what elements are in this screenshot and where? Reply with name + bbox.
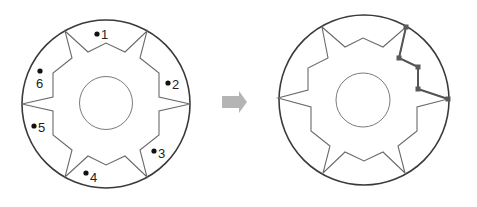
- left-figure: 123456: [22, 20, 190, 188]
- region-marker-dot: [151, 148, 156, 153]
- right-star-outline: [278, 27, 448, 173]
- vertex-handle[interactable]: [446, 97, 451, 102]
- vertex-handle[interactable]: [416, 87, 421, 92]
- right-figure: [278, 15, 451, 185]
- vertex-handle[interactable]: [397, 56, 402, 61]
- region-label-1: 1: [101, 27, 108, 42]
- region-label-4: 4: [90, 170, 97, 185]
- region-label-5: 5: [38, 120, 45, 135]
- left-outer-circle: [22, 20, 190, 188]
- vertex-handle[interactable]: [416, 65, 421, 70]
- region-marker-dot: [83, 170, 88, 175]
- right-outer-circle: [279, 15, 449, 185]
- transition-arrow-icon: [222, 91, 247, 113]
- right-inner-circle: [336, 73, 390, 127]
- region-label-2: 2: [172, 77, 179, 92]
- region-marker-dot: [31, 123, 36, 128]
- region-marker-dot: [37, 68, 42, 73]
- vertex-handle[interactable]: [404, 25, 409, 30]
- region-labels: 123456: [31, 27, 179, 185]
- region-marker-dot: [94, 31, 99, 36]
- region-marker-dot: [165, 80, 170, 85]
- diagram-canvas: 123456: [0, 0, 477, 207]
- region-label-6: 6: [36, 76, 43, 91]
- region-label-3: 3: [158, 146, 165, 161]
- left-inner-circle: [80, 77, 133, 130]
